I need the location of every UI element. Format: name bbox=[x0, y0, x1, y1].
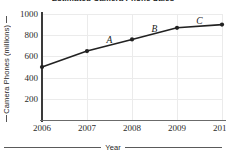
y-tick-label: 1000 bbox=[20, 9, 38, 19]
x-tick-label: 2010 bbox=[213, 123, 226, 133]
x-axis-title: Year bbox=[105, 143, 121, 152]
series-polyline bbox=[42, 25, 222, 67]
x-axis-title-rule-left bbox=[4, 147, 101, 148]
segment-label-c: C bbox=[196, 16, 202, 26]
data-point-marker bbox=[85, 49, 89, 53]
data-point-marker bbox=[40, 65, 44, 69]
gridline-vertical bbox=[222, 14, 223, 120]
y-axis-title-rule-bottom bbox=[6, 115, 7, 122]
x-tick-label: 2007 bbox=[78, 123, 96, 133]
x-axis-title-rule-right bbox=[125, 147, 222, 148]
y-axis-title-rule-top bbox=[6, 16, 7, 23]
y-axis-title: Camera Phones (millions) bbox=[2, 25, 11, 114]
data-point-marker bbox=[220, 23, 224, 27]
chart-title: Estimated Camera Phone Sales bbox=[0, 0, 226, 3]
x-axis-title-group: Year bbox=[4, 143, 222, 152]
data-point-marker bbox=[175, 26, 179, 30]
y-tick-label: 800 bbox=[25, 30, 39, 40]
y-tick-label: 200 bbox=[25, 94, 39, 104]
plot-area: 2004006008001000 20062007200820092010 AB… bbox=[42, 14, 222, 120]
segment-label-b: B bbox=[152, 24, 158, 34]
y-tick-label: 400 bbox=[25, 73, 39, 83]
x-tick-label: 2009 bbox=[168, 123, 186, 133]
data-point-marker bbox=[130, 37, 134, 41]
x-tick-label: 2008 bbox=[123, 123, 141, 133]
x-tick-label: 2006 bbox=[33, 123, 51, 133]
series-line bbox=[42, 14, 222, 120]
chart-screenshot: Estimated Camera Phone Sales Camera Phon… bbox=[0, 0, 226, 162]
y-axis-title-group: Camera Phones (millions) bbox=[0, 8, 13, 130]
segment-label-a: A bbox=[107, 35, 113, 45]
y-tick-label: 600 bbox=[25, 51, 39, 61]
